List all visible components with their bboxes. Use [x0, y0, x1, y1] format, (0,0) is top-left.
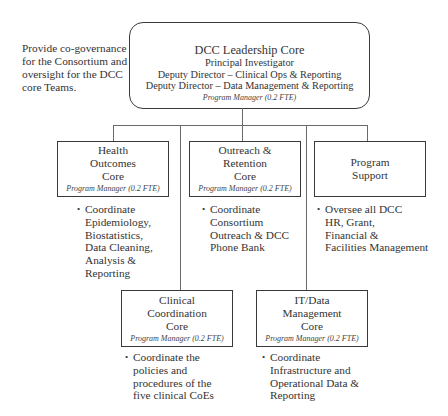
connector-program-support	[367, 125, 368, 141]
bullet-text: Oversee all DCC HR, Grant, Financial & F…	[317, 203, 447, 254]
core-program-manager: Program Manager (0.2 FTE)	[190, 183, 300, 194]
outreach-retention-bullet: • Coordinate Consortium Outreach & DCC P…	[202, 203, 302, 254]
outreach-retention-core-box: Outreach & Retention Core Program Manage…	[189, 141, 301, 197]
connector-leadership-down	[242, 108, 243, 126]
clinical-coordination-core-box: Clinical Coordination Core Program Manag…	[121, 290, 233, 347]
bullet-text: Coordinate Infrastructure and Operationa…	[262, 351, 392, 402]
core-name: Health Outcomes Core	[58, 144, 168, 183]
core-program-manager: Program Manager (0.2 FTE)	[257, 333, 367, 344]
leadership-role-pi: Principal Investigator	[130, 57, 369, 69]
bullet-glyph: •	[77, 203, 80, 216]
core-name: Clinical Coordination Core	[122, 294, 232, 333]
connector-outreach	[242, 125, 243, 141]
core-program-manager: Program Manager (0.2 FTE)	[122, 333, 232, 344]
connector-clinical	[180, 125, 181, 290]
bullet-glyph: •	[202, 203, 205, 216]
connector-health	[113, 125, 114, 141]
leadership-title: DCC Leadership Core	[130, 43, 369, 57]
clinical-coordination-bullet: • Coordinate the policies and procedures…	[125, 351, 245, 402]
program-support-box: Program Support	[314, 141, 426, 197]
bullet-glyph: •	[317, 203, 320, 216]
bullet-text: Coordinate the policies and procedures o…	[125, 351, 245, 402]
governance-note: Provide co-governance for the Consortium…	[22, 42, 132, 94]
connector-horizontal-bus	[113, 125, 368, 126]
bullet-text: Coordinate Epidemiology, Biostatistics, …	[77, 203, 177, 280]
bullet-glyph: •	[125, 351, 128, 364]
leadership-core-box: DCC Leadership Core Principal Investigat…	[129, 22, 370, 109]
health-outcomes-core-box: Health Outcomes Core Program Manager (0.…	[57, 141, 169, 197]
core-program-manager: Program Manager (0.2 FTE)	[58, 183, 168, 194]
core-name: IT/Data Management Core	[257, 294, 367, 333]
leadership-program-manager: Program Manager (0.2 FTE)	[130, 92, 369, 103]
leadership-role-deputy-clinical: Deputy Director – Clinical Ops & Reporti…	[130, 69, 369, 81]
health-outcomes-bullet: • Coordinate Epidemiology, Biostatistics…	[77, 203, 177, 280]
it-data-management-core-box: IT/Data Management Core Program Manager …	[256, 290, 368, 347]
bullet-glyph: •	[262, 351, 265, 364]
connector-it-data	[306, 125, 307, 290]
core-name: Program Support	[315, 156, 425, 182]
core-name: Outreach & Retention Core	[190, 144, 300, 183]
program-support-bullet: • Oversee all DCC HR, Grant, Financial &…	[317, 203, 447, 254]
it-data-management-bullet: • Coordinate Infrastructure and Operatio…	[262, 351, 392, 402]
bullet-text: Coordinate Consortium Outreach & DCC Pho…	[202, 203, 302, 254]
leadership-role-deputy-data: Deputy Director – Data Management & Repo…	[130, 80, 369, 92]
